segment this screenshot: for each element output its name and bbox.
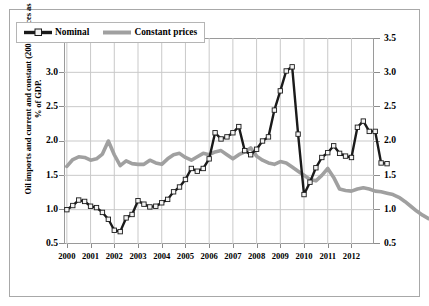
y-tick-left-0-5: 0.5 [34, 238, 58, 248]
series-marker-nominal [290, 65, 294, 69]
series-marker-nominal [243, 148, 247, 152]
legend-label-constant-prices: Constant prices [134, 28, 197, 37]
series-marker-nominal [130, 212, 134, 216]
legend-label-nominal: Nominal [55, 28, 89, 37]
x-tick-mark-2012 [351, 244, 352, 248]
x-tick-mark-2002 [114, 244, 115, 248]
series-marker-nominal [337, 151, 341, 155]
series-marker-nominal [165, 197, 169, 201]
data-series-layer [64, 38, 374, 244]
series-marker-nominal [320, 155, 324, 159]
series-marker-nominal [278, 89, 282, 93]
series-marker-nominal [314, 166, 318, 170]
x-tick-mark-2003 [138, 244, 139, 248]
series-marker-nominal [379, 161, 383, 165]
y-tick-right-2-0: 2.0 [384, 135, 408, 145]
series-marker-nominal [94, 205, 98, 209]
y-tick-right-3-0: 3.0 [384, 67, 408, 77]
series-marker-nominal [148, 205, 152, 209]
y-tick-mark-right-6 [374, 243, 380, 244]
series-marker-nominal [112, 228, 116, 232]
y-tick-mark-right-1 [374, 72, 380, 73]
series-marker-nominal [183, 177, 187, 181]
legend-swatch-constant-prices-icon [103, 27, 131, 38]
y-tick-left-1-0: 1.0 [34, 204, 58, 214]
chart-figure: Oil imports and current and constant (20… [0, 0, 429, 306]
x-tick-mark-2004 [162, 244, 163, 248]
series-marker-nominal [266, 135, 270, 139]
y-axis-title-line-2: % of GDP. [33, 80, 43, 119]
y-tick-left-2-0: 2.0 [34, 135, 58, 145]
y-tick-mark-right-2 [374, 106, 380, 107]
series-marker-nominal [207, 157, 211, 161]
x-tick-label-2012: 2012 [337, 252, 365, 261]
series-marker-nominal [136, 199, 140, 203]
y-tick-mark-right-0 [374, 38, 380, 39]
series-marker-nominal [349, 155, 353, 159]
series-marker-nominal [284, 69, 288, 73]
series-marker-nominal [201, 166, 205, 170]
series-marker-nominal [219, 137, 223, 141]
series-marker-nominal [260, 139, 264, 143]
series-marker-nominal [326, 150, 330, 154]
x-tick-mark-2009 [280, 244, 281, 248]
series-marker-nominal [225, 135, 229, 139]
y-tick-right-3-5: 3.5 [384, 33, 408, 43]
series-marker-nominal [254, 147, 258, 151]
x-tick-mark-2011 [328, 244, 329, 248]
series-marker-nominal [343, 154, 347, 158]
series-line-nominal [67, 67, 387, 232]
series-marker-nominal [195, 169, 199, 173]
series-marker-nominal [100, 210, 104, 214]
y-tick-right-0-5: 0.5 [384, 238, 408, 248]
series-marker-nominal [88, 204, 92, 208]
y-tick-right-1-0: 1.0 [384, 204, 408, 214]
series-marker-nominal [71, 203, 75, 207]
series-marker-nominal [308, 180, 312, 184]
plot-area [64, 38, 374, 244]
series-marker-nominal [177, 185, 181, 189]
y-tick-mark-right-5 [374, 209, 380, 210]
series-marker-nominal [296, 132, 300, 136]
y-tick-right-1-5: 1.5 [384, 170, 408, 180]
y-tick-mark-right-4 [374, 175, 380, 176]
y-tick-left-3-0: 3.0 [34, 67, 58, 77]
series-marker-nominal [361, 119, 365, 123]
series-marker-nominal [189, 166, 193, 170]
series-marker-nominal [355, 125, 359, 129]
y-tick-right-2-5: 2.5 [384, 101, 408, 111]
series-marker-nominal [331, 144, 335, 148]
chart-legend: Nominal Constant prices [16, 22, 205, 43]
series-marker-nominal [248, 153, 252, 157]
legend-entry-constant-prices: Constant prices [103, 27, 197, 38]
series-marker-nominal [118, 229, 122, 233]
series-marker-nominal [367, 129, 371, 133]
series-marker-nominal [272, 108, 276, 112]
x-tick-mark-2000 [67, 244, 68, 248]
series-marker-nominal [160, 201, 164, 205]
series-marker-nominal [385, 161, 389, 165]
legend-swatch-nominal-icon [24, 27, 52, 38]
series-marker-nominal [237, 124, 241, 128]
series-marker-nominal [302, 192, 306, 196]
y-tick-left-2-5: 2.5 [34, 101, 58, 111]
series-marker-nominal [124, 216, 128, 220]
x-tick-mark-2007 [233, 244, 234, 248]
x-tick-mark-2001 [91, 244, 92, 248]
series-marker-nominal [77, 198, 81, 202]
x-tick-mark-2010 [304, 244, 305, 248]
series-marker-nominal [171, 190, 175, 194]
series-marker-nominal [82, 199, 86, 203]
x-tick-mark-2008 [257, 244, 258, 248]
y-tick-left-1-5: 1.5 [34, 170, 58, 180]
series-marker-nominal [373, 129, 377, 133]
series-marker-nominal [231, 131, 235, 135]
series-marker-nominal [154, 204, 158, 208]
legend-entry-nominal: Nominal [24, 27, 89, 38]
x-tick-mark-2005 [185, 244, 186, 248]
series-marker-nominal [65, 207, 69, 211]
x-tick-mark-2006 [209, 244, 210, 248]
series-marker-nominal [142, 202, 146, 206]
series-marker-nominal [106, 217, 110, 221]
series-marker-nominal [213, 131, 217, 135]
